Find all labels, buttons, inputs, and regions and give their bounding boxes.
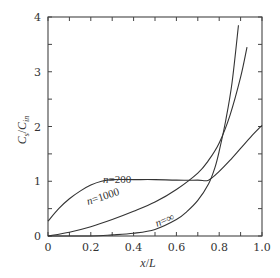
x-tick-label: 0.4 [125,241,143,254]
chart: 00.20.40.60.81.001234 n=200 n=1000 n=∞ x… [0,0,280,278]
x-tick-label: 0.2 [82,241,100,254]
curves [48,25,262,236]
x-tick-label: 0 [45,241,52,254]
x-tick-label: 1.0 [253,241,271,254]
y-tick-label: 1 [34,175,41,188]
x-tick-label: 0.6 [168,241,186,254]
x-axis-title: x/L [139,256,156,270]
y-tick-label: 0 [34,230,41,243]
curve-ninf [48,25,238,236]
y-tick-label: 2 [34,121,41,134]
y-tick-label: 4 [34,11,41,24]
plot-frame [48,17,262,236]
label-n200: n=200 [103,173,132,185]
y-tick-label: 3 [34,66,41,79]
axis-ticks [48,17,262,236]
axes-box [48,17,262,236]
curve-n200 [48,125,262,221]
curve-n1000 [48,47,247,236]
x-tick-label: 0.8 [210,241,228,254]
y-axis-title: Cs/Cin [15,116,31,145]
label-n1000: n=1000 [85,185,121,207]
